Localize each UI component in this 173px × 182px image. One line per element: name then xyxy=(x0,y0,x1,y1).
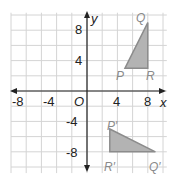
x-axis-label: x xyxy=(159,95,167,110)
vertex-label-q-prime: Q′ xyxy=(149,160,161,174)
vertex-label-p: P xyxy=(116,69,124,83)
vertex-label-p-prime: P′ xyxy=(107,119,118,133)
x-tick-4: 4 xyxy=(113,94,120,109)
coordinate-plane: x y O -8 -4 4 8 8 4 -4 -8 Q P R P′ Q′ R′ xyxy=(0,0,173,182)
y-axis-arrow-down-icon xyxy=(84,165,90,172)
x-tick-neg8: -8 xyxy=(12,94,24,109)
x-tick-neg4: -4 xyxy=(43,94,55,109)
x-tick-8: 8 xyxy=(144,94,151,109)
vertex-label-r: R xyxy=(146,69,155,83)
y-tick-neg4: -4 xyxy=(66,114,78,129)
vertex-label-q: Q xyxy=(136,11,145,25)
y-tick-4: 4 xyxy=(75,53,82,68)
y-tick-8: 8 xyxy=(75,22,82,37)
y-axis-label: y xyxy=(90,11,99,26)
origin-label: O xyxy=(74,94,84,109)
y-tick-neg8: -8 xyxy=(66,145,78,160)
vertex-label-r-prime: R′ xyxy=(104,160,116,174)
